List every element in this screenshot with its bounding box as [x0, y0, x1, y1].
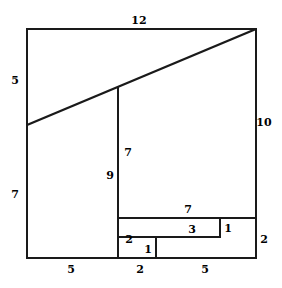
diagram-canvas — [0, 0, 282, 288]
outer-square — [27, 29, 256, 258]
label-right-2: 2 — [260, 234, 268, 245]
diagonal-line — [27, 29, 256, 125]
label-left-5: 5 — [11, 75, 19, 86]
label-right-10: 10 — [256, 117, 271, 128]
label-bottom-5-left: 5 — [67, 264, 75, 275]
label-band-3: 3 — [188, 224, 196, 235]
label-band-1-bottom: 1 — [144, 244, 152, 255]
label-inner-7: 7 — [124, 147, 132, 158]
geometry-diagram: 12 5 7 10 2 7 9 7 3 1 2 1 5 2 5 — [0, 0, 282, 288]
label-left-7: 7 — [11, 189, 19, 200]
label-band-7: 7 — [184, 204, 192, 215]
label-bottom-2: 2 — [136, 264, 144, 275]
label-band-2-left: 2 — [125, 234, 133, 245]
label-inner-9: 9 — [106, 170, 114, 181]
label-top-12: 12 — [131, 15, 146, 26]
label-bottom-5-right: 5 — [201, 264, 209, 275]
label-band-1-right: 1 — [224, 223, 232, 234]
